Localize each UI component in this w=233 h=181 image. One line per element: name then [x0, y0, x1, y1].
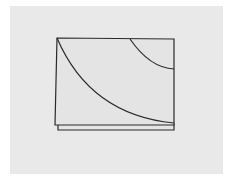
diagram-canvas [0, 0, 233, 181]
front-sheet [55, 38, 174, 125]
diagram-svg [0, 0, 233, 181]
